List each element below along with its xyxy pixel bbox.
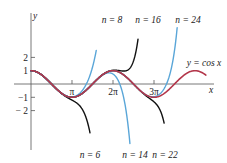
curve-label: n = 16: [135, 15, 161, 25]
curve-n-6: [31, 71, 90, 133]
y-tick-label: 2: [23, 53, 28, 63]
x-axis-label: x: [208, 85, 214, 95]
y-tick-label: −1: [18, 93, 28, 103]
curves: [31, 28, 206, 144]
y-axis-label: y: [32, 11, 38, 21]
x-tick-label: 2π: [108, 87, 118, 97]
curve-label: n = 22: [152, 150, 178, 160]
curve-label: n = 8: [102, 15, 123, 25]
x-tick-label: π: [70, 87, 75, 97]
curve-label: n = 14: [122, 150, 148, 160]
curve-label: n = 6: [80, 150, 101, 160]
curve-label: y = cos x: [186, 58, 222, 68]
axes: x y π2π3π 21−1− 2: [14, 11, 214, 150]
curve-label: n = 24: [175, 15, 201, 25]
taylor-cos-chart: x y π2π3π 21−1− 2 n = 8n = 16n = 24y = c…: [0, 0, 227, 163]
y-tick-label: − 2: [16, 106, 29, 116]
y-tick-label: 1: [23, 66, 28, 76]
